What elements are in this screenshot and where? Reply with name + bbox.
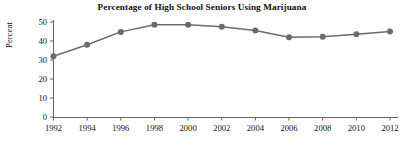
x-tick-label: 2006 — [280, 123, 298, 133]
x-tick-label: 1996 — [112, 123, 130, 133]
y-tick-label: 30 — [38, 55, 47, 65]
y-tick-label: 0 — [43, 112, 47, 122]
x-tick-label: 1994 — [79, 123, 97, 133]
x-tick-label: 1992 — [45, 123, 62, 133]
data-point-marker — [84, 42, 90, 48]
y-tick-label: 40 — [38, 36, 47, 46]
x-tick-label: 1998 — [146, 123, 163, 133]
data-point-marker — [118, 29, 124, 35]
data-point-marker — [219, 24, 225, 30]
data-point-marker — [286, 34, 292, 40]
x-tick-label: 2002 — [213, 123, 230, 133]
x-tick-label: 2000 — [180, 123, 197, 133]
x-tick-label: 2010 — [348, 123, 365, 133]
y-axis-ticks: 01020304050 — [38, 17, 53, 122]
plot-area: 01020304050 1992199419961998200020022004… — [0, 0, 404, 151]
data-point-marker — [252, 28, 258, 34]
x-tick-label: 2004 — [247, 123, 265, 133]
y-tick-label: 20 — [38, 74, 47, 84]
chart-figure: Percentage of High School Seniors Using … — [0, 0, 404, 151]
y-tick-label: 50 — [38, 17, 47, 27]
data-point-marker — [151, 22, 157, 28]
data-point-marker — [51, 53, 57, 59]
x-tick-label: 2008 — [314, 123, 331, 133]
x-axis-ticks: 1992199419961998200020022004200620082010… — [45, 117, 399, 133]
data-point-marker — [353, 31, 359, 37]
data-point-marker — [320, 34, 326, 40]
data-point-marker — [185, 22, 191, 28]
y-tick-label: 10 — [38, 93, 47, 103]
data-series-markers — [51, 22, 394, 60]
data-point-marker — [387, 29, 393, 35]
x-tick-label: 2012 — [381, 123, 398, 133]
